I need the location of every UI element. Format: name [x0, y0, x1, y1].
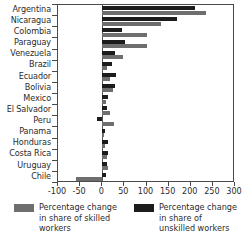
- legend-label: Percentage change in share of skilled wo…: [39, 202, 117, 234]
- bar-skilled: [102, 144, 105, 148]
- category-label: Peru: [0, 116, 51, 125]
- category-label: Mexico: [0, 94, 51, 103]
- category-label: Paraguay: [0, 38, 51, 47]
- legend-entry: Percentage change in share of unskilled …: [134, 202, 237, 234]
- bar-skilled: [102, 33, 146, 37]
- category-label: Ecuador: [0, 72, 51, 81]
- bar-skilled: [102, 155, 106, 159]
- bar-group: [58, 61, 233, 72]
- category-label: Chile: [0, 172, 51, 181]
- value-tick-label: -100: [48, 186, 66, 196]
- value-tick-label: 200: [182, 186, 197, 196]
- bar-group: [58, 172, 233, 182]
- bar-group: [58, 38, 233, 49]
- bar-skilled: [76, 177, 103, 181]
- category-label: Panama: [0, 127, 51, 136]
- bar-skilled: [102, 100, 106, 104]
- value-axis-tick-labels: -100-50050100150200250300: [0, 186, 247, 197]
- bar-skilled: [102, 88, 113, 92]
- category-label: El Salvador: [0, 105, 51, 114]
- value-tick-label: 150: [160, 186, 175, 196]
- bar-skilled: [102, 66, 107, 70]
- bar-group: [58, 50, 233, 61]
- bar-group: [58, 94, 233, 105]
- bar-group: [58, 72, 233, 83]
- bar-skilled: [102, 44, 146, 48]
- bar-group: [58, 116, 233, 127]
- bar-chart: ArgentinaNicaraguaColombiaParaguayVenezu…: [0, 0, 247, 247]
- bar-unskilled: [102, 173, 106, 177]
- category-axis-labels: ArgentinaNicaraguaColombiaParaguayVenezu…: [0, 4, 54, 182]
- bar-group: [58, 150, 233, 161]
- bar-skilled: [102, 122, 114, 126]
- category-label: Brazil: [0, 60, 51, 69]
- bar-group: [58, 127, 233, 138]
- category-label: Bolivia: [0, 83, 51, 92]
- legend-swatch-unskilled: [134, 204, 154, 212]
- legend-swatch-skilled: [14, 204, 34, 212]
- bar-group: [58, 161, 233, 172]
- bar-group: [58, 5, 233, 16]
- bar-skilled: [102, 22, 161, 26]
- value-tick-label: 0: [99, 186, 104, 196]
- value-tick-label: -50: [73, 186, 86, 196]
- bar-skilled: [102, 133, 104, 137]
- plot-area: [57, 4, 234, 182]
- bar-group: [58, 139, 233, 150]
- value-tick-label: 100: [138, 186, 153, 196]
- legend-label: Percentage change in share of unskilled …: [159, 202, 237, 234]
- chart-legend: Percentage change in share of skilled wo…: [0, 202, 247, 244]
- bar-group: [58, 16, 233, 27]
- legend-entry: Percentage change in share of skilled wo…: [14, 202, 117, 234]
- bar-skilled: [102, 11, 206, 15]
- bar-skilled: [102, 55, 122, 59]
- category-label: Venezuela: [0, 49, 51, 58]
- bar-group: [58, 27, 233, 38]
- value-tick-label: 50: [118, 186, 128, 196]
- bar-group: [58, 105, 233, 116]
- bar-skilled: [102, 77, 110, 81]
- bar-skilled: [102, 166, 108, 170]
- category-label: Argentina: [0, 5, 51, 14]
- value-tick-label: 250: [204, 186, 219, 196]
- category-label: Costa Rica: [0, 149, 51, 158]
- bar-group: [58, 83, 233, 94]
- bar-skilled: [102, 111, 110, 115]
- category-label: Uruguay: [0, 161, 51, 170]
- value-tick-label: 300: [226, 186, 241, 196]
- category-label: Nicaragua: [0, 16, 51, 25]
- category-label: Honduras: [0, 138, 51, 147]
- category-label: Colombia: [0, 27, 51, 36]
